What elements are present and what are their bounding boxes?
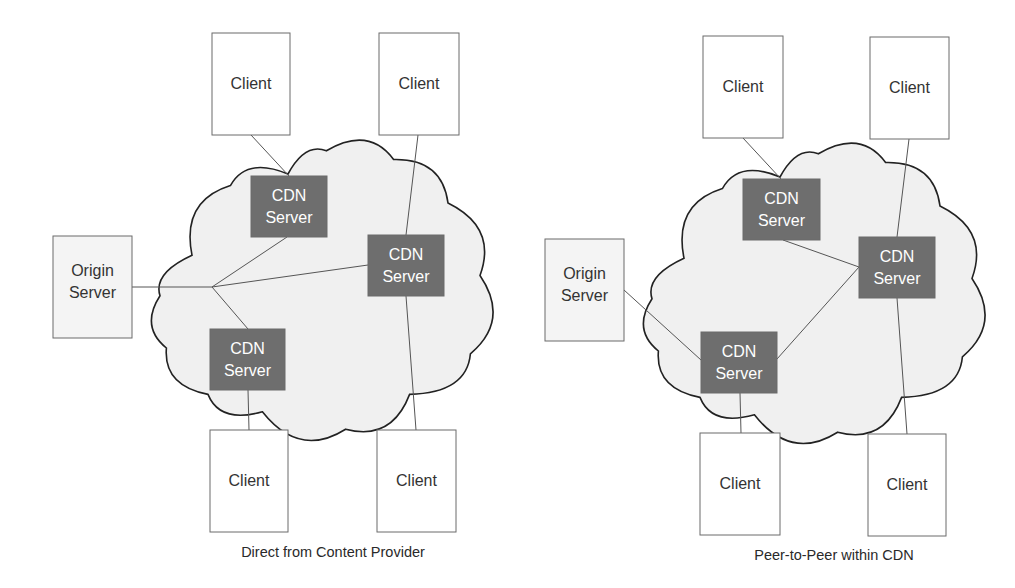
cdn-diagram-figure: ClientClientOriginServerCDNServerCDNServ… xyxy=(0,0,1015,588)
client-label: Client xyxy=(229,472,270,489)
origin-server: OriginServer xyxy=(53,236,132,338)
client-label: Client xyxy=(231,75,272,92)
cdn-label: Server xyxy=(758,212,806,229)
cdn-label: Server xyxy=(224,362,272,379)
origin-label: Server xyxy=(561,287,609,304)
cdn-label: CDN xyxy=(722,343,757,360)
diagram-p2p: ClientClientOriginServerCDNServerCDNServ… xyxy=(545,36,985,536)
client-bottom-left: Client xyxy=(700,433,780,535)
cdn-label: Server xyxy=(873,270,921,287)
origin-label: Server xyxy=(69,284,117,301)
cdn-label: Server xyxy=(382,268,430,285)
cdn-label: CDN xyxy=(230,340,265,357)
cdn-box xyxy=(859,237,935,298)
cdn-server-1: CDNServer xyxy=(743,179,820,240)
cdn-label: CDN xyxy=(880,248,915,265)
diagram-direct: ClientClientOriginServerCDNServerCDNServ… xyxy=(53,33,493,532)
caption-peer-to-peer-within-cdn: Peer-to-Peer within CDN xyxy=(754,547,914,563)
cdn-box xyxy=(251,176,327,237)
cdn-box xyxy=(210,329,285,390)
origin-label: Origin xyxy=(563,265,606,282)
cdn-label: CDN xyxy=(272,187,307,204)
client-bottom-right: Client xyxy=(377,430,456,532)
cdn-server-3: CDNServer xyxy=(701,332,777,393)
client-top-left: Client xyxy=(703,36,783,138)
cdn-server-2: CDNServer xyxy=(859,237,935,298)
cdn-label: CDN xyxy=(389,246,424,263)
client-label: Client xyxy=(399,75,440,92)
client-top-right: Client xyxy=(379,33,459,135)
cdn-box xyxy=(368,235,444,296)
cdn-server-1: CDNServer xyxy=(251,176,327,237)
client-bottom-left: Client xyxy=(210,430,288,532)
cdn-box xyxy=(743,179,820,240)
client-label: Client xyxy=(723,78,764,95)
client-label: Client xyxy=(887,476,928,493)
cdn-label: Server xyxy=(265,209,313,226)
cdn-label: CDN xyxy=(764,190,799,207)
client-top-right: Client xyxy=(870,37,949,139)
cdn-server-2: CDNServer xyxy=(368,235,444,296)
caption-direct-from-content-provider: Direct from Content Provider xyxy=(241,544,425,560)
origin-server: OriginServer xyxy=(545,239,624,341)
client-label: Client xyxy=(720,475,761,492)
client-label: Client xyxy=(889,79,930,96)
client-bottom-right: Client xyxy=(868,434,946,536)
client-top-left: Client xyxy=(212,33,290,135)
client-label: Client xyxy=(396,472,437,489)
cdn-box xyxy=(701,332,777,393)
diagram-canvas: ClientClientOriginServerCDNServerCDNServ… xyxy=(0,0,1015,588)
cdn-server-3: CDNServer xyxy=(210,329,285,390)
cdn-label: Server xyxy=(715,365,763,382)
origin-label: Origin xyxy=(71,262,114,279)
